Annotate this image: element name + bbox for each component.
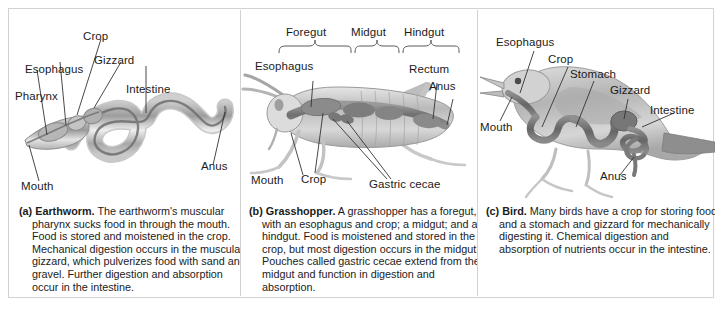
caption-term: Earthworm. (35, 205, 94, 217)
bracket-label-foregut: Foregut (286, 27, 326, 39)
caption-body: The earthworm's muscular pharynx sucks f… (32, 205, 240, 293)
label-gastric-cecae: Gastric cecae (369, 179, 441, 191)
label-esophagus: Esophagus (255, 61, 313, 73)
label-gizzard: Gizzard (94, 55, 134, 67)
label-anus: Anus (429, 81, 456, 93)
caption-bird: (c) Bird. Many birds have a crop for sto… (486, 205, 715, 255)
caption-tag: (a) (19, 205, 32, 217)
caption-term: Bird. (502, 205, 527, 217)
label-mouth: Mouth (251, 175, 283, 187)
label-crop: Crop (301, 174, 326, 186)
label-anus: Anus (201, 161, 228, 173)
bracket-label-hindgut: Hindgut (404, 27, 444, 39)
caption-tag: (b) (249, 205, 263, 217)
label-stomach: Stomach (570, 69, 616, 81)
label-gizzard: Gizzard (610, 85, 650, 97)
caption-earthworm: (a) Earthworm. The earthworm's muscular … (19, 205, 240, 293)
label-mouth: Mouth (480, 122, 512, 134)
label-rectum: Rectum (409, 64, 449, 76)
label-crop: Crop (548, 54, 573, 66)
panel-bird: Esophagus Crop Stomach Gizzard Intestine… (478, 9, 715, 303)
label-intestine: Intestine (126, 84, 170, 96)
label-crop: Crop (83, 31, 108, 43)
caption-grasshopper: (b) Grasshopper. A grasshopper has a for… (249, 205, 477, 293)
label-pharynx: Pharynx (15, 91, 58, 103)
bracket-label-midgut: Midgut (351, 27, 386, 39)
caption-term: Grasshopper. (266, 205, 336, 217)
label-mouth: Mouth (21, 181, 53, 193)
label-esophagus: Esophagus (25, 64, 83, 76)
label-anus: Anus (600, 171, 627, 183)
panel-grasshopper: Foregut Midgut Hindgut Esophagus Rectum … (241, 9, 477, 303)
digestive-systems-figure: Pharynx Esophagus Crop Gizzard Intestine… (0, 0, 724, 312)
caption-body: A grasshopper has a foregut, with an eso… (262, 205, 477, 293)
panel-earthworm: Pharynx Esophagus Crop Gizzard Intestine… (9, 9, 240, 303)
label-intestine: Intestine (650, 105, 694, 117)
caption-tag: (c) (486, 205, 499, 217)
caption-body: Many birds have a crop for storing food … (499, 205, 715, 255)
label-esophagus: Esophagus (496, 37, 554, 49)
